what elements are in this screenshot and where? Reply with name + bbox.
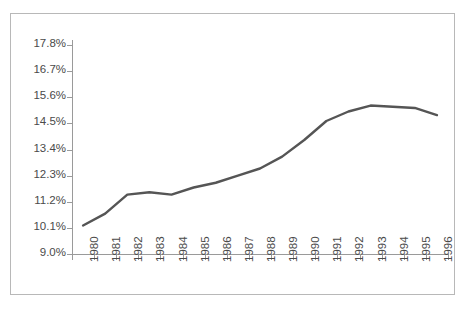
chart-title [0,0,465,12]
chart-frame: 9.0%10.1%11.2%12.3%13.4%14.5%15.6%16.7%1… [10,13,455,295]
data-series-line [11,14,456,296]
chart-screenshot: 9.0%10.1%11.2%12.3%13.4%14.5%15.6%16.7%1… [0,0,465,310]
